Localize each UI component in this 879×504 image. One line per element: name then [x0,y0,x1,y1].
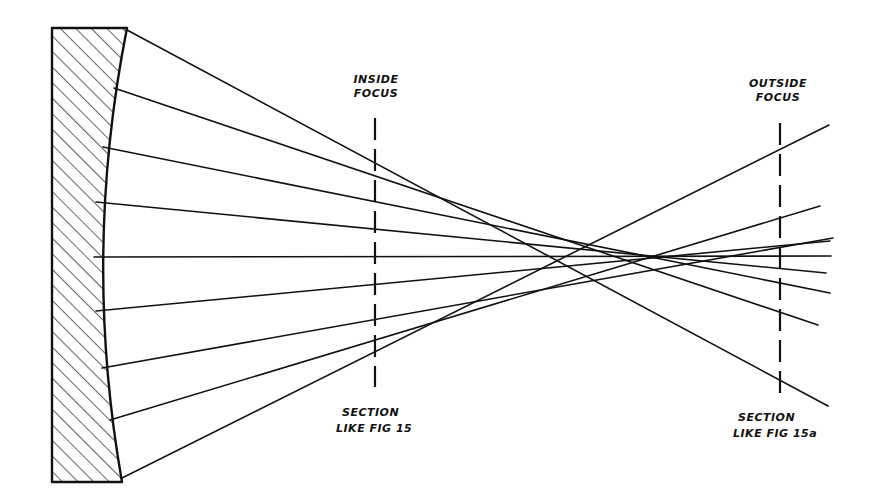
outside-section-label-line1: SECTION [738,411,795,424]
ray-2 [114,88,818,325]
inside-focus-label-line2: FOCUS [354,87,398,100]
inside-focus-label-line1: INSIDE [354,73,399,86]
ray-1 [127,30,828,406]
outside-focus-label-line1: OUTSIDE [749,77,807,90]
spherical-aberration-diagram: INSIDE FOCUS OUTSIDE FOCUS SECTION LIKE … [0,0,879,504]
outside-focus-label-line2: FOCUS [756,91,800,104]
ray-6 [96,241,830,311]
ray-3 [103,147,830,293]
ray-5 [94,256,831,257]
outside-section-label-line2: LIKE FIG 15a [733,427,817,440]
inside-section-label-line2: LIKE FIG 15 [336,422,412,435]
concave-mirror [52,28,127,482]
inside-section-label: SECTION LIKE FIG 15 [336,406,412,435]
inside-focus-label: INSIDE FOCUS [354,73,399,100]
reflected-rays [94,30,833,478]
ray-9 [122,125,829,478]
outside-section-label: SECTION LIKE FIG 15a [733,411,817,440]
outside-focus-label: OUTSIDE FOCUS [749,77,807,104]
inside-section-label-line1: SECTION [342,406,399,419]
